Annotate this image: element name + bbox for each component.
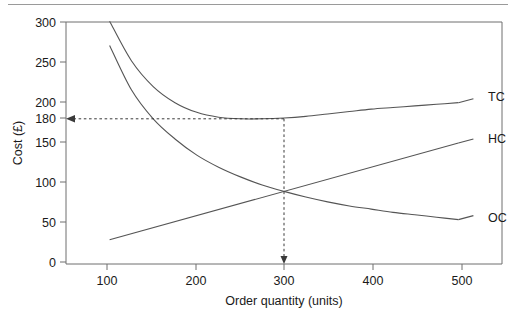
leader-line-oc <box>458 216 473 220</box>
leader-line-tc <box>458 99 473 103</box>
x-tick-label-100: 100 <box>97 274 118 288</box>
series-label-hc: HC <box>488 132 506 146</box>
x-axis-ticks <box>107 264 462 270</box>
y-tick-label-150: 150 <box>35 136 56 150</box>
x-tick-label-300: 300 <box>274 274 295 288</box>
y-tick-label-180: 180 <box>35 112 56 126</box>
plot-frame <box>66 22 502 264</box>
leader-line-hc <box>458 139 473 143</box>
y-tick-label-250: 250 <box>35 56 56 70</box>
chart-canvas: 300 250 200 180 150 100 50 0 100 200 300… <box>0 0 516 313</box>
x-tick-label-500: 500 <box>452 274 473 288</box>
y-tick-label-100: 100 <box>35 176 56 190</box>
y-tick-label-300: 300 <box>35 16 56 30</box>
eoq-guide-arrowhead <box>281 256 288 264</box>
x-axis-title: Order quantity (units) <box>225 294 342 308</box>
min-cost-guide-arrowhead <box>66 115 75 122</box>
y-tick-label-50: 50 <box>42 216 56 230</box>
y-tick-label-0: 0 <box>49 256 56 270</box>
y-axis-title: Cost (£) <box>11 121 25 165</box>
eoq-cost-chart-figure: 300 250 200 180 150 100 50 0 100 200 300… <box>0 0 516 313</box>
series-curve-tc <box>110 21 459 119</box>
min-cost-horizontal-guide <box>66 115 284 122</box>
x-tick-label-400: 400 <box>363 274 384 288</box>
y-tick-label-200: 200 <box>35 96 56 110</box>
series-label-tc: TC <box>488 90 505 104</box>
y-axis-ticks <box>60 22 66 262</box>
x-tick-label-200: 200 <box>186 274 207 288</box>
series-label-oc: OC <box>488 211 507 225</box>
